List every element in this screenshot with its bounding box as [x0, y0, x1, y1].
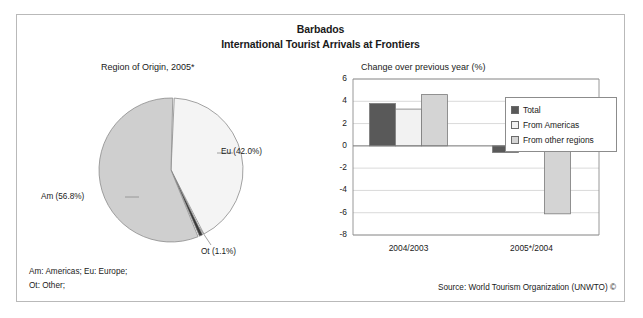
legend-item-from-americas[interactable]: From Americas	[511, 117, 612, 132]
pie-chart-caption: Region of Origin, 2005*	[101, 62, 195, 72]
y-axis-tick-label: -2	[325, 162, 347, 172]
pie-slice-label-other: Ot (1.1%)	[201, 247, 236, 256]
pie-slice-label-europe: Eu (42.0%)	[221, 147, 262, 156]
bar-chart-legend: Total From Americas From other regions	[505, 97, 617, 152]
figure-frame: Barbados International Tourist Arrivals …	[16, 14, 625, 302]
pie-chart-panel: Eu (42.0%) Am (56.8%) Ot (1.1%)	[21, 75, 321, 265]
legend-label-from-other-regions: From other regions	[523, 135, 594, 145]
bar-total-2004-2003	[370, 104, 396, 146]
bar-from-other-regions-2004-2003	[422, 95, 448, 146]
y-axis-tick-label: -4	[325, 184, 347, 194]
legend-swatch-from-other-regions	[511, 136, 519, 144]
bar-from-americas-2004-2003	[396, 109, 422, 146]
y-axis-tick-label: -6	[325, 207, 347, 217]
footnote-abbreviations-line1: Am: Americas; Eu: Europe;	[29, 267, 127, 276]
y-axis-tick-label: 2	[325, 118, 347, 128]
legend-swatch-total	[511, 106, 519, 114]
page-title: Barbados	[17, 23, 624, 35]
legend-item-from-other-regions[interactable]: From other regions	[511, 132, 612, 147]
x-axis-category-label: 2004/2003	[364, 243, 454, 253]
bar-from-other-regions-2005-2004	[545, 146, 571, 214]
pie-slice-label-americas: Am (56.8%)	[41, 192, 84, 201]
pie-chart-svg	[21, 75, 321, 265]
legend-label-total: Total	[523, 105, 541, 115]
legend-label-from-americas: From Americas	[523, 120, 579, 130]
figure-subtitle: International Tourist Arrivals at Fronti…	[17, 38, 624, 50]
legend-item-total[interactable]: Total	[511, 102, 612, 117]
y-axis-tick-label: 6	[325, 73, 347, 83]
bar-chart-panel: 6420-2-4-6-8 2004/20032005*/2004 Total F…	[323, 75, 623, 275]
y-axis-tick-label: 0	[325, 140, 347, 150]
y-axis-tick-label: -8	[325, 229, 347, 239]
legend-swatch-from-americas	[511, 121, 519, 129]
bar-chart-caption: Change over previous year (%)	[361, 62, 486, 72]
x-axis-category-label: 2005*/2004	[487, 243, 577, 253]
footnote-abbreviations-line2: Ot: Other;	[29, 281, 65, 290]
source-note: Source: World Tourism Organization (UNWT…	[438, 283, 616, 292]
y-axis-tick-label: 4	[325, 95, 347, 105]
